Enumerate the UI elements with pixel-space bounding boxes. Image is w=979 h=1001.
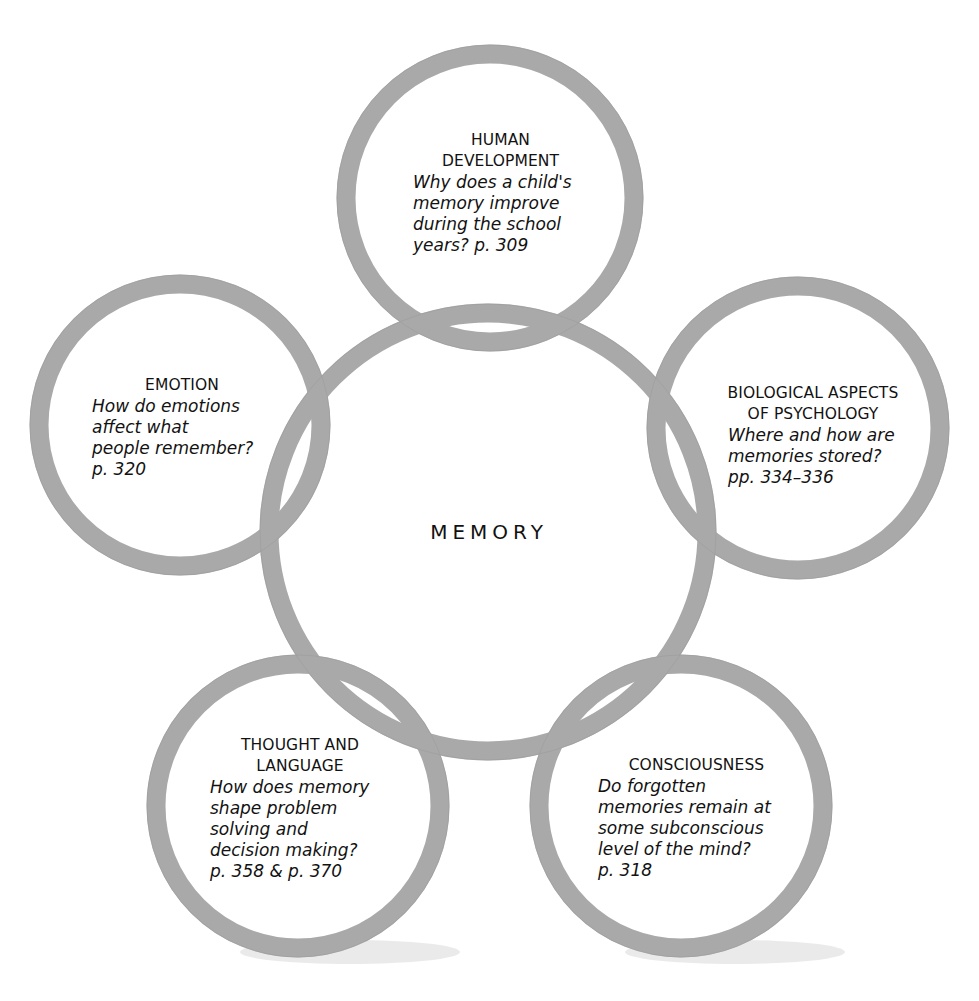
- node-question-line: affect what: [92, 417, 262, 438]
- node-human-development: HUMAN DEVELOPMENT Why does a child's mem…: [413, 130, 588, 256]
- node-title-line: LANGUAGE: [210, 756, 390, 777]
- node-question-line: during the school: [413, 214, 588, 235]
- node-question-line: memory improve: [413, 193, 588, 214]
- node-question-line: shape problem: [210, 798, 390, 819]
- node-question-line: How does memory: [210, 777, 390, 798]
- node-biological-aspects: BIOLOGICAL ASPECTS OF PSYCHOLOGY Where a…: [718, 383, 908, 488]
- node-question-line: some subconscious: [598, 818, 783, 839]
- node-question-line: pp. 334–336: [718, 467, 908, 488]
- node-question-line: Do forgotten: [598, 776, 783, 797]
- node-question-line: decision making?: [210, 840, 390, 861]
- node-title-line: OF PSYCHOLOGY: [718, 404, 908, 425]
- node-question-line: memories stored?: [718, 446, 908, 467]
- node-title-line: BIOLOGICAL ASPECTS: [718, 383, 908, 404]
- node-question-line: level of the mind?: [598, 839, 783, 860]
- node-title-line: THOUGHT AND: [210, 735, 390, 756]
- node-question-line: Where and how are: [718, 425, 908, 446]
- node-question-line: solving and: [210, 819, 390, 840]
- node-title-line: DEVELOPMENT: [413, 151, 588, 172]
- node-question-line: p. 358 & p. 370: [210, 861, 390, 882]
- node-title-line: HUMAN: [413, 130, 588, 151]
- node-question-line: How do emotions: [92, 396, 262, 417]
- node-title-line: CONSCIOUSNESS: [598, 755, 783, 776]
- node-question-line: people remember?: [92, 438, 262, 459]
- node-question-line: memories remain at: [598, 797, 783, 818]
- node-title-line: EMOTION: [92, 375, 262, 396]
- node-emotion: EMOTION How do emotions affect what peop…: [92, 375, 262, 480]
- node-question-line: Why does a child's: [413, 172, 588, 193]
- center-topic-label: MEMORY: [389, 520, 589, 544]
- node-question-line: p. 318: [598, 860, 783, 881]
- node-thought-and-language: THOUGHT AND LANGUAGE How does memory sha…: [210, 735, 390, 882]
- node-question-line: years? p. 309: [413, 235, 588, 256]
- node-question-line: p. 320: [92, 459, 262, 480]
- node-consciousness: CONSCIOUSNESS Do forgotten memories rema…: [598, 755, 783, 881]
